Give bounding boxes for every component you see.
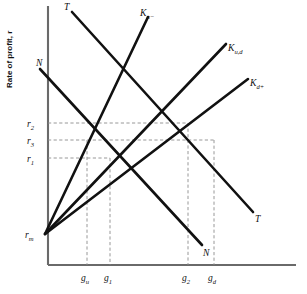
curve-K-d-plus	[45, 79, 248, 234]
y-tick-r2: r2	[27, 118, 35, 131]
y-axis-title: Rate of profit, r	[5, 31, 14, 88]
curve-label-K-d-plus: Kd+	[249, 77, 264, 90]
x-tick-gd: gd	[208, 272, 217, 285]
curve-label-K-u-minus: Ku−	[139, 7, 154, 20]
curve-label-T-bottom: T	[255, 213, 261, 224]
y-tick-r3-text: r3	[27, 135, 35, 148]
x-tick-g1-text: g1	[104, 272, 112, 285]
k-d-plus-sub: d+	[256, 83, 264, 90]
k-u-minus-sub: u−	[146, 13, 154, 20]
curve-label-N-bottom: N	[202, 247, 210, 258]
curve-label-N-bottom-text: N	[202, 247, 210, 258]
y-tick-r1-sub: 1	[31, 159, 34, 166]
y-tick-rm: rm	[25, 229, 34, 242]
x-tick-g1: g1	[104, 272, 112, 285]
x-tick-gu: gu	[81, 272, 90, 285]
x-tick-gd-sub: d	[213, 278, 217, 285]
x-tick-g1-sub: 1	[109, 278, 112, 285]
x-tick-gu-text: gu	[81, 272, 90, 285]
curve-label-K-u-minus-text: Ku−	[139, 7, 154, 20]
growth-profit-rate-figure: Rate of profit, r T T N N Ku−	[0, 0, 307, 294]
y-tick-r3: r3	[27, 135, 35, 148]
curve-label-T-top: T	[64, 1, 70, 12]
k-u-d-sub: u,d	[234, 48, 243, 55]
curve-label-K-u-d-text: Ku,d	[227, 42, 243, 55]
curve-label-N-top: N	[35, 57, 43, 68]
curve-K-u-d	[45, 44, 226, 234]
curve-label-K-d-plus-text: Kd+	[249, 77, 264, 90]
curve-label-K-u-d: Ku,d	[227, 42, 243, 55]
y-tick-r2-sub: 2	[31, 124, 35, 131]
y-axis-title-text: Rate of profit, r	[5, 31, 14, 88]
curve-label-N-top-text: N	[35, 57, 43, 68]
curve-label-T-top-text: T	[64, 1, 70, 12]
curve-label-T-bottom-text: T	[255, 213, 261, 224]
y-tick-r1-text: r1	[27, 153, 34, 166]
y-tick-rm-sub: m	[29, 235, 34, 242]
curve-K-u-minus	[45, 17, 148, 234]
x-tick-g2-text: g2	[182, 272, 191, 285]
y-tick-r1: r1	[27, 153, 34, 166]
y-tick-r3-sub: 3	[30, 141, 35, 148]
x-tick-gu-sub: u	[86, 278, 90, 285]
x-tick-g2: g2	[182, 272, 191, 285]
y-tick-rm-text: rm	[25, 229, 34, 242]
x-tick-g2-sub: 2	[187, 278, 191, 285]
x-tick-gd-text: gd	[208, 272, 217, 285]
y-tick-r2-text: r2	[27, 118, 35, 131]
